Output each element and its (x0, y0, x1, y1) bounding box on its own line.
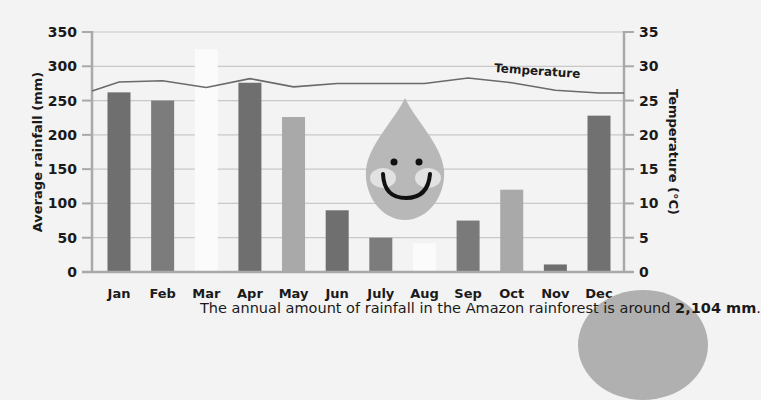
right-tick-label: 0 (639, 264, 649, 280)
bar-feb (151, 101, 174, 272)
chart-caption: The annual amount of rainfall in the Ama… (200, 300, 700, 316)
month-label: May (279, 286, 309, 301)
right-tick-label: 15 (639, 161, 658, 177)
left-tick-label: 0 (67, 264, 77, 280)
bar-jan (108, 92, 131, 272)
right-tick-label: 30 (639, 58, 659, 74)
right-tick-label: 25 (639, 93, 658, 109)
bar-aug (413, 243, 436, 272)
left-tick-label: 300 (48, 58, 77, 74)
caption-text: The annual amount of rainfall in the Ama… (200, 300, 675, 316)
bar-july (369, 238, 392, 272)
x-axis-month-labels: JanFebMarAprMayJunJulyAugSepOctNovDec (107, 286, 613, 301)
bar-jun (326, 210, 349, 272)
left-axis-title: Average rainfall (mm) (30, 72, 45, 232)
bar-apr (238, 83, 261, 272)
right-tick-label: 10 (639, 195, 659, 211)
smiling-raindrop-icon (366, 98, 444, 220)
bar-mar (195, 49, 218, 272)
bar-sep (457, 221, 480, 272)
month-label: Feb (149, 286, 175, 301)
left-tick-label: 200 (48, 127, 77, 143)
caption-suffix: . (756, 300, 761, 316)
rainfall-bars (108, 49, 611, 272)
left-tick-label: 50 (58, 230, 78, 246)
month-label: July (366, 286, 395, 301)
right-axis-title: Temperature (°C) (666, 89, 681, 215)
month-label: Oct (499, 286, 524, 301)
temperature-line (92, 78, 624, 93)
left-tick-label: 100 (48, 195, 77, 211)
bar-oct (500, 190, 523, 272)
bar-dec (588, 116, 611, 272)
right-tick-label: 35 (639, 24, 658, 40)
month-label: Mar (192, 286, 221, 301)
right-tick-label: 5 (639, 230, 649, 246)
month-label: Aug (410, 286, 439, 301)
temperature-series-label: Temperature (494, 61, 581, 81)
month-label: Jun (325, 286, 349, 301)
left-tick-label: 350 (48, 24, 77, 40)
left-axis-tick-labels: 050100150200250300350 (48, 24, 77, 280)
right-tick-label: 20 (639, 127, 659, 143)
left-tick-label: 150 (48, 161, 77, 177)
month-label: Apr (237, 286, 263, 301)
month-label: Nov (541, 286, 570, 301)
left-tick-label: 250 (48, 93, 77, 109)
caption-highlight: 2,104 mm (675, 300, 756, 316)
month-label: Jan (107, 286, 131, 301)
right-axis-tick-labels: 05101520253035 (639, 24, 659, 280)
bar-may (282, 117, 305, 272)
month-label: Sep (454, 286, 482, 301)
